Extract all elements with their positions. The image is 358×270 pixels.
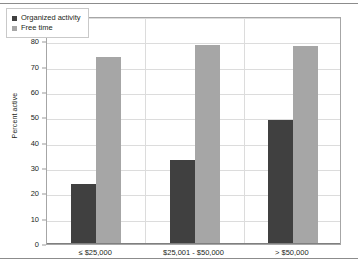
bar-organized-activity: [170, 160, 195, 244]
y-axis-tick-label: 50: [31, 114, 39, 122]
legend-swatch-icon: [12, 26, 17, 31]
y-axis-tick-label: 30: [31, 165, 39, 173]
bar-organized-activity: [71, 184, 96, 244]
x-axis-baseline: [47, 243, 340, 244]
y-axis-tick-label: 0: [35, 241, 39, 249]
x-axis-tick-label: ≤ $25,000: [79, 248, 112, 257]
legend-item: Free time: [12, 23, 81, 33]
y-axis-tick-label: 80: [31, 38, 39, 46]
bar-free-time: [293, 46, 318, 244]
y-axis-tick-label: 60: [31, 89, 39, 97]
y-axis-tick-label: 10: [31, 216, 39, 224]
legend-label: Organized activity: [21, 13, 81, 23]
legend-item: Organized activity: [12, 13, 81, 23]
x-axis-tick-labels: ≤ $25,000$25,001 - $50,000> $50,000: [46, 248, 341, 262]
bars-layer: [47, 18, 340, 244]
y-axis-tick-labels: 0102030405060708090: [16, 17, 42, 245]
bar-organized-activity: [268, 120, 293, 244]
plot-area: [46, 17, 341, 245]
chart-legend: Organized activityFree time: [6, 8, 89, 38]
x-axis-tick-label: > $50,000: [275, 248, 309, 257]
bar-chart-figure: Percent active 0102030405060708090 Organ…: [0, 4, 358, 257]
legend-label: Free time: [21, 23, 53, 33]
y-axis-tick-label: 20: [31, 190, 39, 198]
legend-swatch-icon: [12, 16, 17, 21]
y-axis-tick-label: 70: [31, 64, 39, 72]
bar-free-time: [96, 57, 121, 244]
y-axis-tick-label: 40: [31, 140, 39, 148]
bar-free-time: [195, 45, 220, 244]
x-axis-tick-label: $25,001 - $50,000: [163, 248, 224, 257]
